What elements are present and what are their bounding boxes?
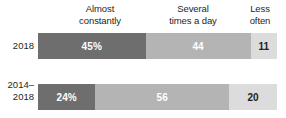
segment-value-label: 44 (192, 41, 203, 52)
column-header-almost-constantly-line2: constantly (40, 15, 160, 27)
segment-value-label: 24% (57, 92, 77, 103)
row-label-2018-line1: 2018 (13, 40, 34, 51)
segment-less-often-2018: 11 (251, 33, 277, 59)
column-header-almost-constantly: Almost constantly (40, 3, 160, 26)
column-header-less-often-line2: often (236, 15, 284, 27)
segment-value-label: 20 (247, 92, 258, 103)
segment-less-often-2014-2018: 20 (229, 84, 277, 110)
column-header-less-often: Less often (236, 3, 284, 26)
column-header-several-times-a-day-line1: Several (177, 3, 209, 14)
segment-value-label: 45% (82, 41, 102, 52)
column-header-several-times-a-day-line2: times a day (150, 15, 236, 27)
segment-almost-constantly-2014-2018: 24% (38, 84, 95, 110)
segment-value-label: 56 (157, 92, 168, 103)
row-label-2014-2018: 2014– 2018 (0, 79, 34, 102)
segment-several-times-a-day-2018: 44 (146, 33, 251, 59)
table-row: 45% 44 11 (38, 33, 277, 59)
segment-several-times-a-day-2014-2018: 56 (95, 84, 229, 110)
column-header-several-times-a-day: Several times a day (150, 3, 236, 26)
column-header-less-often-line1: Less (250, 3, 270, 14)
column-header-almost-constantly-line1: Almost (86, 3, 114, 14)
stacked-bar-chart: Almost constantly Several times a day Le… (0, 0, 286, 118)
segment-value-label: 11 (258, 41, 269, 52)
row-label-2018: 2018 (0, 40, 34, 52)
row-label-2014-2018-line2: 2018 (0, 91, 34, 103)
segment-almost-constantly-2018: 45% (38, 33, 146, 59)
table-row: 24% 56 20 (38, 84, 277, 110)
row-label-2014-2018-line1: 2014– (8, 79, 34, 90)
